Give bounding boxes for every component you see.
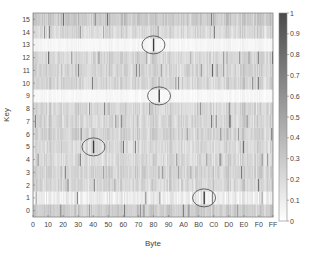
x-tick-label: B0: [194, 221, 203, 228]
colorbar-tick-label: 0.9: [290, 30, 300, 37]
y-tick-label: 4: [26, 156, 30, 163]
colorbar-tick-label: 0.5: [290, 114, 300, 121]
colorbar-tick-label: 0.2: [290, 176, 300, 183]
y-tick-label: 10: [22, 80, 30, 87]
colorbar-tick-label: 0.1: [290, 197, 300, 204]
y-tick-label: 14: [22, 29, 30, 36]
y-tick-label: 1: [26, 194, 30, 201]
y-tick-label: 7: [26, 118, 30, 125]
x-tick-label: 40: [89, 221, 97, 228]
y-tick-label: 9: [26, 92, 30, 99]
colorbar-tick-label: 0.3: [290, 155, 300, 162]
x-tick-label: 90: [165, 221, 173, 228]
y-tick-label: 0: [26, 207, 30, 214]
x-tick-label: 50: [104, 221, 112, 228]
y-tick-label: 2: [26, 182, 30, 189]
colorbar-tick-label: 0.6: [290, 93, 300, 100]
y-axis-label: Key: [2, 108, 11, 122]
x-tick-label: D0: [224, 221, 233, 228]
y-tick-label: 13: [22, 41, 30, 48]
x-tick-label: FF: [269, 221, 278, 228]
y-tick-label: 3: [26, 169, 30, 176]
y-tick-label: 12: [22, 54, 30, 61]
colorbar-tick-label: 0: [290, 218, 294, 225]
heatmap-cells: [33, 13, 273, 217]
x-tick-label: F0: [255, 221, 263, 228]
x-tick-label: 20: [59, 221, 67, 228]
colorbar-tick-label: 0.4: [290, 134, 300, 141]
colorbar: [279, 13, 287, 221]
colorbar-tick-label: 1: [290, 10, 294, 17]
x-tick-label: A0: [179, 221, 188, 228]
y-tick-label: 15: [22, 16, 30, 23]
y-tick-label: 6: [26, 131, 30, 138]
x-tick-label: E0: [240, 221, 249, 228]
x-tick-label: 80: [150, 221, 158, 228]
x-tick-label: 30: [74, 221, 82, 228]
x-tick-label: 10: [44, 221, 52, 228]
colorbar-tick-label: 0.7: [290, 72, 300, 79]
x-tick-label: 70: [135, 221, 143, 228]
x-tick-label: C0: [209, 221, 218, 228]
y-tick-label: 8: [26, 105, 30, 112]
x-tick-label: 0: [31, 221, 35, 228]
heatmap-chart: 0102030405060708090A0B0C0D0E0F0FF 012345…: [0, 0, 314, 257]
x-axis-label: Byte: [145, 239, 162, 248]
x-tick-label: 60: [119, 221, 127, 228]
colorbar-ticks: 00.10.20.30.40.50.60.70.80.91: [287, 10, 300, 225]
colorbar-tick-label: 0.8: [290, 51, 300, 58]
y-tick-label: 5: [26, 143, 30, 150]
y-tick-label: 11: [23, 67, 30, 74]
